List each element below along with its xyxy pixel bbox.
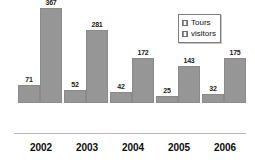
bar-rect <box>86 30 108 103</box>
x-tick-2005: 2005 <box>156 142 202 153</box>
bar-tours-2003[interactable]: 52 <box>64 0 86 103</box>
x-tick-2002: 2002 <box>18 142 64 153</box>
x-axis-line <box>14 133 246 134</box>
x-tick-2006: 2006 <box>202 142 248 153</box>
bar-tours-2002[interactable]: 71 <box>18 0 40 103</box>
bar-tours-2005[interactable]: 25 <box>156 0 178 103</box>
x-axis-labels: 2002 2003 2004 2005 2006 <box>0 136 255 164</box>
bar-rect <box>18 85 40 103</box>
bar-value-label: 172 <box>126 49 160 57</box>
plot-area: 71 367 52 281 42 <box>0 0 255 134</box>
bar-rect <box>132 58 154 103</box>
legend-item-tours[interactable]: Tours <box>182 17 216 28</box>
bar-rect <box>110 92 132 103</box>
legend-item-visitors[interactable]: visitors <box>182 28 216 39</box>
chart-legend[interactable]: Tours visitors <box>178 14 221 43</box>
bar-visitors-2006[interactable]: 175 <box>224 0 246 103</box>
bar-rect <box>202 94 224 103</box>
bar-value-label: 367 <box>34 0 68 7</box>
legend-label-tours: Tours <box>191 18 211 28</box>
x-tick-2004: 2004 <box>110 142 156 153</box>
legend-label-visitors: visitors <box>191 29 216 39</box>
bar-rect <box>64 90 86 103</box>
bar-value-label: 281 <box>80 21 114 29</box>
bar-chart: 71 367 52 281 42 <box>0 0 255 164</box>
legend-swatch-tours-icon <box>182 20 188 26</box>
bar-value-label: 143 <box>172 57 206 65</box>
legend-swatch-visitors-icon <box>182 31 188 37</box>
x-tick-2003: 2003 <box>64 142 110 153</box>
bar-value-label: 175 <box>218 49 252 57</box>
bar-rect <box>224 58 246 103</box>
bar-rect <box>156 96 178 103</box>
